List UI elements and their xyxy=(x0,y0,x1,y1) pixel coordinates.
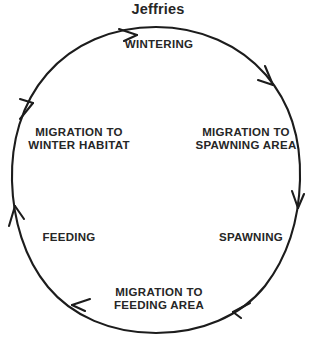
stage-label-feeding: FEEDING xyxy=(14,231,124,244)
cycle-diagram-figure: Jeffries WINTERING MIGRATION TO SPAWNING… xyxy=(0,0,316,341)
figure-title: Jeffries xyxy=(0,1,316,17)
stage-label-migration-to-winter-habitat: MIGRATION TO WINTER HABITAT xyxy=(8,126,150,152)
stage-label-spawning: SPAWNING xyxy=(196,231,306,244)
stage-label-migration-to-feeding-area: MIGRATION TO FEEDING AREA xyxy=(78,286,240,312)
stage-label-migration-to-spawning-area: MIGRATION TO SPAWNING AREA xyxy=(182,126,310,152)
cycle-arrowheads xyxy=(9,29,304,318)
arrow-upper-left-icon xyxy=(20,99,33,119)
stage-label-wintering: WINTERING xyxy=(86,38,232,51)
